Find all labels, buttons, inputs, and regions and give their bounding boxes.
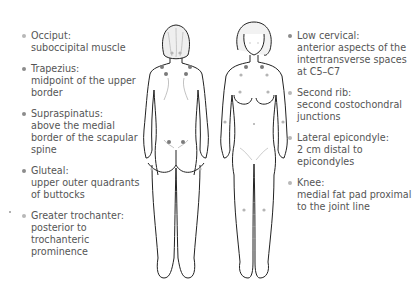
label-title: Low cervical:	[297, 30, 412, 42]
bullet-icon	[22, 214, 26, 218]
label-gluteal: Gluteal: upper outer quadrants of buttoc…	[22, 165, 142, 201]
label-description: suboccipital muscle	[31, 42, 142, 54]
front-figure-svg	[210, 0, 300, 285]
label-description: midpoint of the upper border	[31, 75, 142, 99]
label-title: Supraspinatus:	[31, 108, 142, 120]
label-description: medial fat pad proximal to the joint lin…	[297, 189, 412, 213]
label-description: 2 cm distal to epicondyles	[297, 144, 412, 168]
label-description: anterior aspects of the intertransverse …	[297, 42, 412, 78]
stray-dot	[9, 211, 11, 213]
label-greater-trochanter: Greater trochanter: posterior to trochan…	[22, 210, 142, 258]
back-figure-svg	[130, 0, 220, 285]
label-title: Trapezius:	[31, 63, 142, 75]
label-title: Greater trochanter:	[31, 210, 142, 222]
bullet-icon	[22, 34, 26, 38]
bullet-icon	[22, 67, 26, 71]
label-title: Second rib:	[297, 87, 412, 99]
anterior-tender-points-list: Low cervical: anterior aspects of the in…	[288, 30, 412, 222]
bullet-icon	[288, 136, 292, 140]
bullet-icon	[288, 181, 292, 185]
label-description: upper outer quadrants of buttocks	[31, 177, 142, 201]
bullet-icon	[288, 91, 292, 95]
bullet-icon	[22, 169, 26, 173]
label-description: second costochondral junctions	[297, 99, 412, 123]
label-description: above the medial border of the scapular …	[31, 120, 142, 156]
anterior-view-figure	[210, 0, 300, 285]
label-supraspinatus: Supraspinatus: above the medial border o…	[22, 108, 142, 156]
posterior-tender-points-list: Occiput: suboccipital muscle Trapezius: …	[22, 30, 142, 267]
label-occiput: Occiput: suboccipital muscle	[22, 30, 142, 54]
label-title: Knee:	[297, 177, 412, 189]
label-lateral-epicondyle: Lateral epicondyle: 2 cm distal to epico…	[288, 132, 412, 168]
bullet-icon	[22, 112, 26, 116]
label-title: Occiput:	[31, 30, 142, 42]
label-trapezius: Trapezius: midpoint of the upper border	[22, 63, 142, 99]
label-second-rib: Second rib: second costochondral junctio…	[288, 87, 412, 123]
label-title: Gluteal:	[31, 165, 142, 177]
posterior-view-figure	[130, 0, 220, 285]
label-knee: Knee: medial fat pad proximal to the joi…	[288, 177, 412, 213]
label-title: Lateral epicondyle:	[297, 132, 412, 144]
label-description: posterior to trochanteric prominence	[31, 222, 142, 258]
label-low-cervical: Low cervical: anterior aspects of the in…	[288, 30, 412, 78]
bullet-icon	[288, 34, 292, 38]
